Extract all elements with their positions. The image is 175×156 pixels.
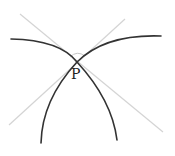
tangent-line-1 — [20, 14, 163, 132]
diagram-canvas: P — [0, 0, 175, 156]
tangent-line-2 — [9, 19, 125, 125]
point-label-p: P — [71, 66, 80, 82]
diagram-svg: P — [0, 0, 175, 156]
right-curve — [41, 36, 161, 143]
left-curve — [11, 39, 117, 140]
